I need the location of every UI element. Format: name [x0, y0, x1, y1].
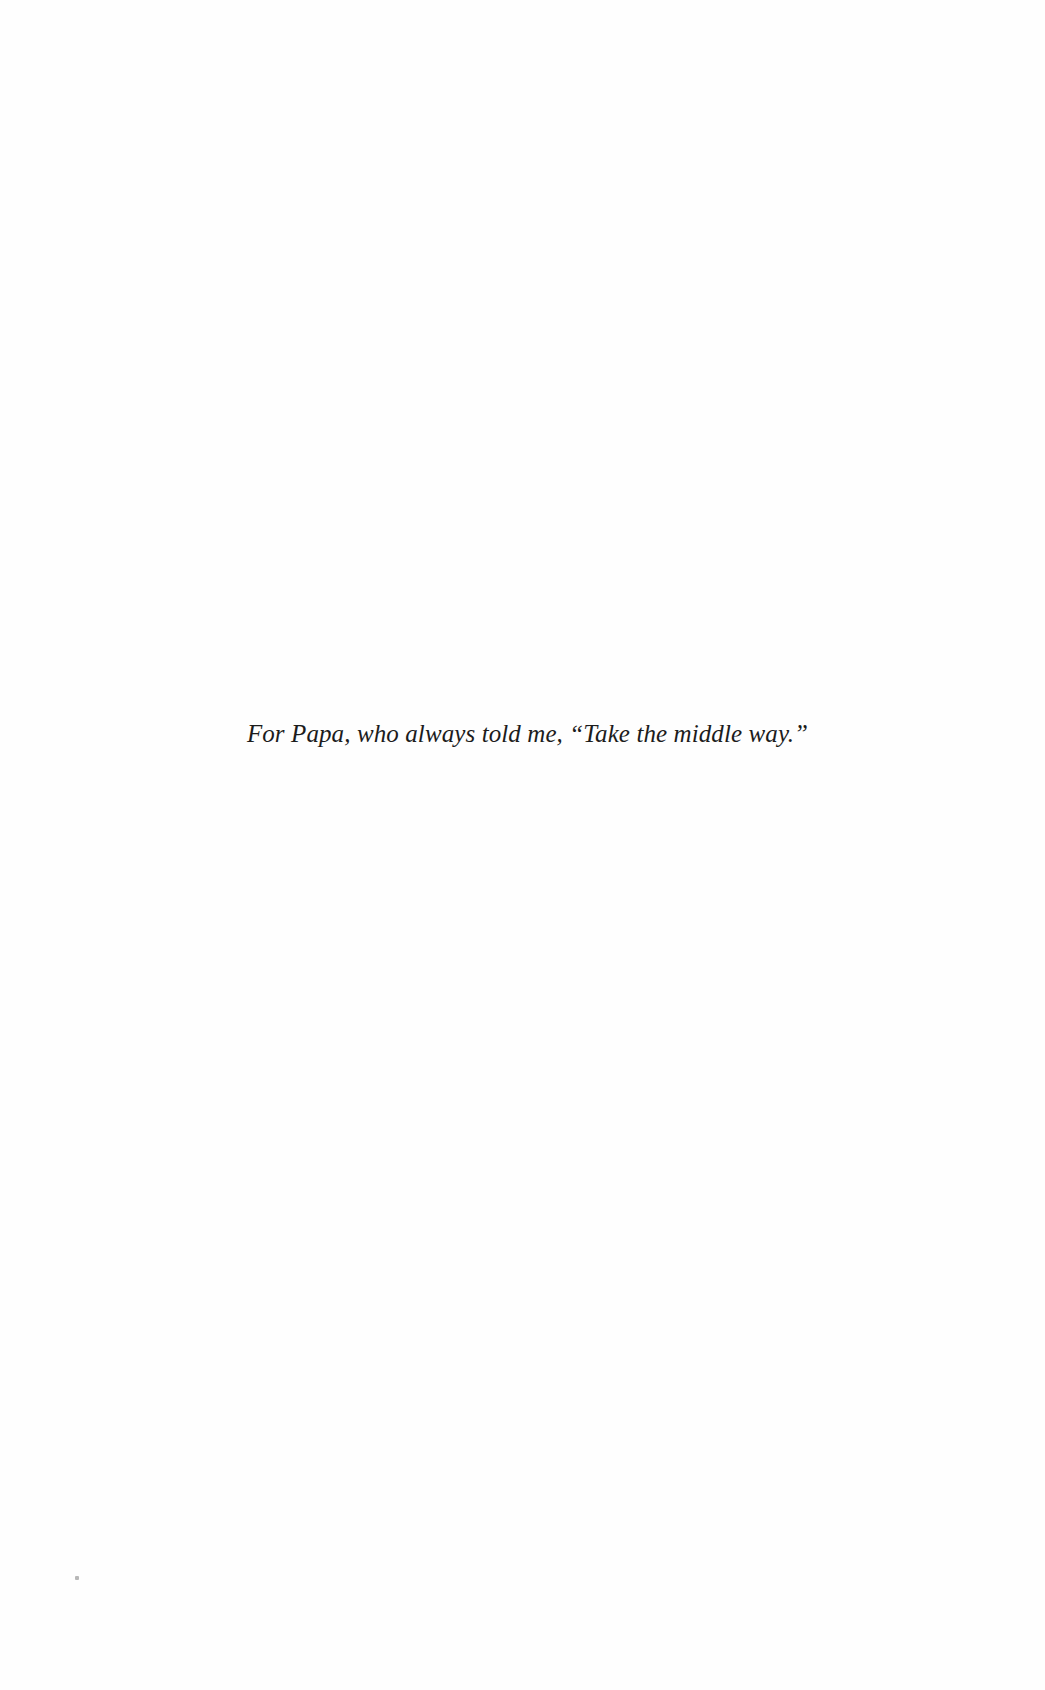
dedication-text: For Papa, who always told me, “Take the …	[0, 719, 1045, 749]
book-page: For Papa, who always told me, “Take the …	[0, 0, 1045, 1690]
scan-speck	[75, 1576, 79, 1580]
